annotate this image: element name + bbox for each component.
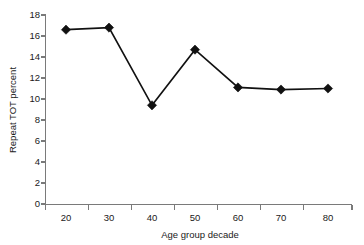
data-point-marker: [61, 25, 70, 34]
x-tick-label-80: 80: [323, 212, 334, 223]
data-point-marker: [104, 23, 113, 32]
data-point-marker: [276, 85, 285, 94]
y-tick-label-0: 0: [35, 198, 40, 209]
x-tick-label-60: 60: [233, 212, 244, 223]
y-tick-label-4: 4: [35, 156, 40, 167]
x-tick-label-50: 50: [190, 212, 201, 223]
y-tick-label-12: 12: [29, 72, 40, 83]
series-line: [66, 28, 328, 106]
y-tick-label-16: 16: [29, 30, 40, 41]
x-tick-label-40: 40: [147, 212, 158, 223]
series-markers: [61, 23, 332, 110]
y-tick-label-6: 6: [35, 135, 40, 146]
y-tick-label-2: 2: [35, 177, 40, 188]
chart-figure: Repeat TOT percent 18 16 14 12 10 8 6 4 …: [0, 0, 364, 245]
x-tick-marks: [46, 205, 353, 211]
y-tick-label-18: 18: [29, 9, 40, 20]
y-tick-label-8: 8: [35, 114, 40, 125]
data-series: [61, 23, 332, 110]
x-tick-label-70: 70: [276, 212, 287, 223]
data-point-marker: [323, 84, 332, 93]
line-chart: Repeat TOT percent 18 16 14 12 10 8 6 4 …: [0, 0, 364, 245]
y-tick-label-14: 14: [29, 51, 40, 62]
y-axis-title: Repeat TOT percent: [7, 67, 18, 153]
x-axis-title: Age group decade: [161, 229, 239, 240]
y-tick-label-10: 10: [29, 93, 40, 104]
x-tick-label-20: 20: [61, 212, 72, 223]
x-tick-label-30: 30: [104, 212, 115, 223]
